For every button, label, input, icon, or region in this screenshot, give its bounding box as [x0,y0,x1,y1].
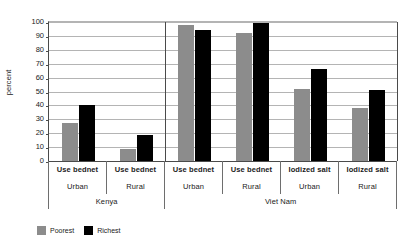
y-axis-tick-label: 0 [5,156,49,165]
category-label: Use bednet [48,161,106,178]
legend-item-richest: Richest [84,226,120,235]
legend-label: Poorest [50,227,74,234]
legend-swatch-richest [84,226,93,235]
y-axis-tick-label: 50 [5,87,49,96]
y-axis-tick-label: 90 [5,31,49,40]
bar-richest [79,105,95,161]
y-axis-tick-label: 10 [5,142,49,151]
y-axis-tick-label: 70 [5,59,49,68]
y-axis-tick-label: 40 [5,100,49,109]
bar-poorest [236,33,252,161]
bar-group [165,22,223,161]
legend-item-poorest: Poorest [37,226,74,235]
legend-swatch-poorest [37,226,46,235]
bar-poorest [62,123,78,161]
bar-poorest [178,25,194,161]
bar-group [107,22,165,161]
legend-label: Richest [97,227,120,234]
bar-richest [311,69,327,161]
bar-poorest [352,108,368,161]
area-label: Urban [48,178,106,194]
category-row: Use bednetUse bednetUse bednetUse bednet… [48,161,397,178]
legend: PoorestRichest [37,226,120,235]
country-row: KenyaViet Nam [48,194,397,209]
plot-area: 1009080706050403020100 [48,21,397,161]
bar-richest [253,23,269,161]
country-label: Kenya [48,194,164,209]
category-label: Use bednet [222,161,280,178]
y-axis-tick-label: 80 [5,45,49,54]
y-axis-tick-label: 100 [5,17,49,26]
bar-chart: percent 1009080706050403020100 Use bedne… [0,0,420,244]
area-label: Rural [106,178,164,194]
bar-poorest [294,89,310,161]
x-axis-labels: Use bednetUse bednetUse bednetUse bednet… [48,161,397,209]
category-label: Iodized salt [338,161,397,178]
category-label: Use bednet [164,161,222,178]
plot-right-edge [397,22,398,161]
y-axis-tick-label: 30 [5,114,49,123]
bar-groups [49,22,397,161]
area-label: Urban [164,178,222,194]
category-label: Use bednet [106,161,164,178]
area-row: UrbanRuralUrbanRuralUrbanRural [48,178,397,194]
area-label: Rural [338,178,397,194]
bar-richest [195,30,211,161]
bar-richest [137,135,153,161]
y-axis-tick-label: 60 [5,73,49,82]
bar-group [223,22,281,161]
bar-richest [369,90,385,161]
country-label: Viet Nam [164,194,397,209]
bar-poorest [120,149,136,162]
area-label: Rural [222,178,280,194]
bar-group [49,22,107,161]
bar-group [281,22,339,161]
bar-group [339,22,397,161]
y-axis-tick-label: 20 [5,128,49,137]
category-label: Iodized salt [280,161,338,178]
area-label: Urban [280,178,338,194]
